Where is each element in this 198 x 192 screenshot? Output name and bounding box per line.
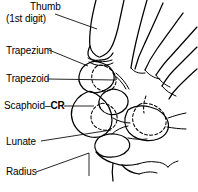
- leader-radius: [36, 153, 89, 172]
- label-scaphoid: Scaphoid–CR: [4, 100, 65, 112]
- leader-lines: [36, 14, 116, 176]
- thumb-outline: [88, 0, 124, 66]
- leader-thumb: [55, 14, 97, 29]
- label-radius: Radius: [6, 166, 37, 178]
- anatomy-diagram: Thumb (1st digit) Trapezium Trapezoid Sc…: [0, 0, 198, 192]
- label-trapezoid: Trapezoid: [6, 73, 49, 85]
- trapezium-bone: [79, 62, 116, 93]
- metacarpal-shafts: [131, 0, 197, 99]
- scaphoid-bone: [71, 91, 130, 137]
- label-thumb-sublabel: (1st digit): [6, 13, 46, 25]
- label-lunate: Lunate: [6, 136, 36, 148]
- hidden-carpal-bones: [125, 96, 186, 141]
- leader-trapezoid: [47, 79, 116, 80]
- label-scaphoid-cr: CR: [50, 100, 64, 111]
- label-scaphoid-name: Scaphoid: [4, 100, 45, 111]
- label-trapezium: Trapezium: [6, 45, 52, 57]
- leader-trapezium: [49, 50, 88, 66]
- label-thumb: Thumb: [30, 1, 61, 13]
- leader-lunate: [41, 130, 111, 141]
- wrist-line-drawing: [0, 0, 198, 192]
- lunate-bone: [95, 126, 147, 157]
- radius-bone: [96, 152, 178, 181]
